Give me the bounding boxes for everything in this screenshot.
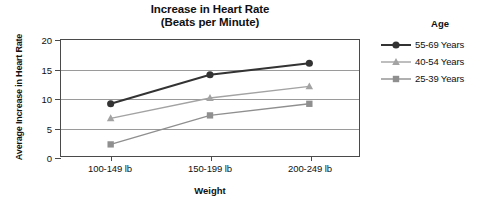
x-axis-tick-label: 200-249 lb	[265, 163, 355, 174]
legend-swatch	[381, 55, 411, 69]
y-axis-tick-label: 5	[47, 124, 52, 135]
y-axis-tick-label: 10	[41, 94, 52, 105]
data-point-marker	[392, 41, 399, 48]
data-point-marker	[306, 101, 312, 107]
x-axis-title: Weight	[60, 185, 360, 196]
chart-title-line-1: Increase in Heart Rate	[60, 3, 360, 16]
chart-title: Increase in Heart Rate (Beats per Minute…	[60, 3, 360, 29]
series-line	[111, 104, 310, 145]
data-point-marker	[207, 112, 213, 118]
legend-swatch	[381, 72, 411, 86]
y-axis-tick-label: 0	[47, 153, 52, 164]
legend-label: 40-54 Years	[415, 56, 464, 67]
y-axis-tick-label: 20	[41, 35, 52, 46]
legend-item[interactable]: 25-39 Years	[381, 70, 481, 87]
chart-title-line-2: (Beats per Minute)	[60, 16, 360, 29]
plot-area: 05101520	[60, 39, 360, 157]
y-axis-tick-label: 15	[41, 65, 52, 76]
data-series-layer	[61, 40, 359, 156]
y-axis-tick: 20	[41, 31, 61, 49]
x-axis-tick-mark	[211, 156, 212, 161]
y-axis-title: Average Increase in Heart Rate	[14, 22, 24, 172]
legend-item[interactable]: 55-69 Years	[381, 36, 481, 53]
legend-item[interactable]: 40-54 Years	[381, 53, 481, 70]
x-axis-tick-label: 100-149 lb	[65, 163, 155, 174]
legend: Age 55-69 Years40-54 Years25-39 Years	[381, 18, 481, 87]
data-point-marker	[306, 82, 314, 89]
y-axis-tick: 15	[41, 61, 61, 79]
data-point-marker	[306, 60, 313, 67]
data-point-marker	[107, 141, 113, 147]
legend-swatch	[381, 38, 411, 52]
x-axis-tick-label: 150-199 lb	[165, 163, 255, 174]
legend-label: 25-39 Years	[415, 73, 464, 84]
data-point-marker	[206, 71, 213, 78]
chart-container: Increase in Heart Rate (Beats per Minute…	[0, 0, 481, 214]
y-axis-tick: 0	[47, 149, 61, 167]
x-axis-tick-mark	[111, 156, 112, 161]
y-axis-tick-mark	[55, 158, 61, 159]
legend-label: 55-69 Years	[415, 39, 464, 50]
legend-items: 55-69 Years40-54 Years25-39 Years	[381, 36, 481, 87]
data-point-marker	[107, 100, 114, 107]
x-axis-tick-mark	[311, 156, 312, 161]
legend-title: Age	[409, 18, 471, 29]
y-axis-tick: 5	[47, 120, 61, 138]
series-25-39-years	[107, 101, 312, 148]
y-axis-tick: 10	[41, 90, 61, 108]
data-point-marker	[393, 75, 399, 81]
